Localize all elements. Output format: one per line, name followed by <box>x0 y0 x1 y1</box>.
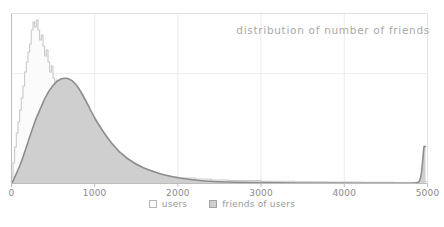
legend-item-users[interactable]: users <box>149 199 187 209</box>
xaxis-tick-label-2000: 2000 <box>166 188 190 198</box>
xaxis-ticks <box>12 184 428 188</box>
chart-legend: users friends of users <box>0 199 444 209</box>
xaxis-tick-label-5000: 5000 <box>416 188 440 198</box>
legend-item-friends-of-users[interactable]: friends of users <box>209 199 295 209</box>
legend-label-friends-of-users: friends of users <box>222 199 295 209</box>
legend-label-users: users <box>162 199 187 209</box>
xaxis-tick-label-0: 0 <box>9 188 15 198</box>
friends-swatch-icon <box>209 200 217 208</box>
chart-figure: distribution of number of friends 0 1000… <box>0 0 444 227</box>
users-swatch-icon <box>149 200 157 208</box>
chart-title: distribution of number of friends <box>236 24 430 36</box>
xaxis-tick-label-1000: 1000 <box>83 188 107 198</box>
xaxis-tick-label-4000: 4000 <box>332 188 356 198</box>
xaxis-tick-label-3000: 3000 <box>249 188 273 198</box>
